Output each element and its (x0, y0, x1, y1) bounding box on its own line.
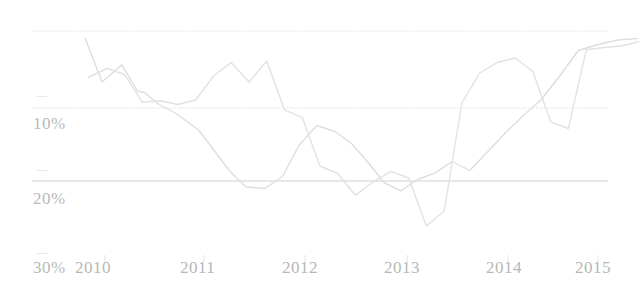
x-axis-label-2013: 2013 (384, 258, 420, 278)
y-axis-label-30pct: 30% (33, 258, 66, 278)
y-axis-label-10pct: 10% (33, 114, 66, 134)
y-tick-dash-20: –– (37, 166, 47, 175)
series-line-1 (85, 39, 637, 191)
x-axis-ticks (105, 255, 598, 262)
x-axis-label-2011: 2011 (180, 258, 215, 278)
y-axis-label-20pct: 20% (33, 189, 66, 209)
y-tick-dash-30: –– (37, 249, 47, 258)
x-axis-label-2012: 2012 (282, 258, 318, 278)
data-series-group (85, 39, 639, 227)
x-axis-label-2010: 2010 (75, 258, 111, 278)
line-chart: –– –– –– 10% 20% 30% 2010 2011 2012 2013… (0, 0, 639, 305)
series-line-2 (88, 42, 639, 227)
y-tick-dash-10: –– (37, 92, 47, 101)
gridlines (32, 31, 608, 181)
x-axis-label-2015: 2015 (575, 258, 611, 278)
x-axis-label-2014: 2014 (486, 258, 522, 278)
